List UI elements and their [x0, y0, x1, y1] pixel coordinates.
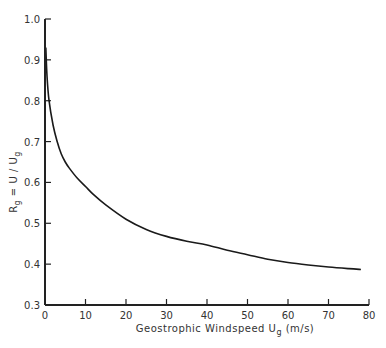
x-tick-label: 40	[201, 310, 214, 321]
x-tick-label: 0	[42, 310, 48, 321]
x-tick-label: 70	[322, 310, 335, 321]
x-tick-label: 10	[79, 310, 92, 321]
series-line-rg	[46, 48, 361, 270]
x-tick-label: 60	[282, 310, 295, 321]
y-tick-label: 1.0	[24, 14, 40, 25]
y-tick-label: 0.6	[24, 177, 40, 188]
y-tick-label: 0.4	[24, 259, 40, 270]
ticks-layer: 0.30.40.50.60.70.80.91.00102030405060708…	[24, 14, 375, 321]
y-tick-label: 0.9	[24, 55, 40, 66]
x-tick-label: 80	[363, 310, 376, 321]
x-axis-title-unit: (m/s)	[282, 323, 314, 334]
x-tick-label: 50	[241, 310, 254, 321]
y-axis-title-r: R	[8, 205, 19, 212]
x-tick-label: 20	[120, 310, 133, 321]
y-axis-title: Rg = U / Ug	[8, 151, 22, 213]
chart: 0.30.40.50.60.70.80.91.00102030405060708…	[0, 0, 386, 348]
x-tick-label: 30	[160, 310, 173, 321]
x-axis-title: Geostrophic Windspeed Ug (m/s)	[136, 323, 315, 337]
y-tick-label: 0.3	[24, 300, 40, 311]
x-axis-title-main: Geostrophic Windspeed U	[136, 323, 277, 334]
y-tick-label: 0.5	[24, 218, 40, 229]
y-tick-label: 0.8	[24, 96, 40, 107]
y-axis-title-u-subscript: g	[13, 151, 22, 157]
y-tick-label: 0.7	[24, 137, 40, 148]
y-axis-title-mid: = U / U	[8, 157, 19, 200]
